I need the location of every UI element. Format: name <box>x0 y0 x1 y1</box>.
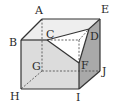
label-J: J <box>101 65 106 78</box>
label-D: D <box>90 30 99 43</box>
label-A: A <box>34 4 44 17</box>
cube-diagram: A B C D E F G H I J <box>0 0 117 107</box>
label-F: F <box>81 59 89 72</box>
label-H: H <box>10 90 20 103</box>
label-E: E <box>101 3 109 16</box>
label-I: I <box>76 91 80 104</box>
label-G: G <box>32 60 41 73</box>
label-B: B <box>9 36 17 49</box>
label-C: C <box>46 28 54 41</box>
